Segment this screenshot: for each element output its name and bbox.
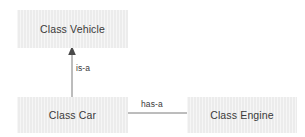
class-node-vehicle[interactable]: Class Vehicle xyxy=(17,10,128,48)
class-node-engine[interactable]: Class Engine xyxy=(187,97,297,133)
edge-label-is-a: is-a xyxy=(74,63,92,73)
class-diagram-canvas: Class Vehicle Class Car Class Engine is-… xyxy=(0,0,305,137)
class-node-car-label: Class Car xyxy=(49,109,96,121)
edge-label-has-a: has-a xyxy=(139,99,165,109)
class-node-vehicle-label: Class Vehicle xyxy=(40,23,105,35)
class-node-engine-label: Class Engine xyxy=(210,109,274,121)
class-node-car[interactable]: Class Car xyxy=(17,97,128,133)
